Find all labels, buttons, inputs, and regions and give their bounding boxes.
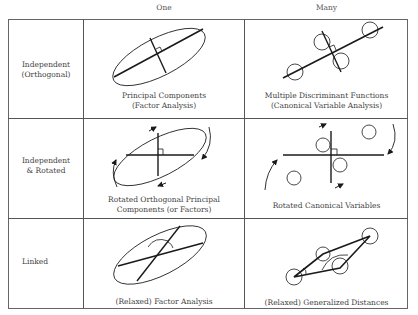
caption-line1: Rotated Orthogonal Principal <box>84 195 244 205</box>
caption-rotated-principal-components: Rotated Orthogonal Principal Components … <box>84 195 244 215</box>
caption-line2: (Factor Analysis) <box>84 101 244 111</box>
caption-relaxed-generalized-distances: (Relaxed) Generalized Distances <box>245 298 408 308</box>
figure-relaxed-generalized-distances <box>286 228 378 285</box>
figure-relaxed-factor-analysis <box>105 214 214 296</box>
figure-principal-components <box>105 17 213 97</box>
caption-line2: (Canonical Variable Analysis) <box>245 101 408 111</box>
caption-line2: Components (or Factors) <box>84 205 244 215</box>
caption-principal-components: Principal Components (Factor Analysis) <box>84 91 244 111</box>
figure-multiple-discriminant <box>283 22 383 80</box>
figure-rotated-principal-components <box>106 117 214 197</box>
diagram-figures <box>0 0 418 315</box>
caption-line1: Principal Components <box>84 91 244 101</box>
caption-line1: Rotated Canonical Variables <box>245 201 408 211</box>
caption-relaxed-factor-analysis: (Relaxed) Factor Analysis <box>84 297 244 307</box>
caption-line1: (Relaxed) Factor Analysis <box>84 297 244 307</box>
figure-rotated-canonical-variables <box>265 124 395 190</box>
caption-rotated-canonical-variables: Rotated Canonical Variables <box>245 201 408 211</box>
caption-line1: (Relaxed) Generalized Distances <box>245 298 408 308</box>
caption-multiple-discriminant: Multiple Discriminant Functions (Canonic… <box>245 91 408 111</box>
caption-line1: Multiple Discriminant Functions <box>245 91 408 101</box>
